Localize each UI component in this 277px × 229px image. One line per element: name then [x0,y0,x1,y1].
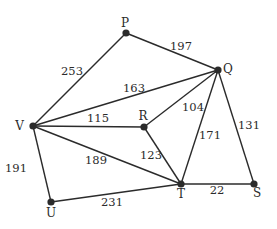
node-q [214,66,221,73]
edge-weight-label: 191 [5,161,27,175]
node-label: P [121,16,129,30]
node-label: S [253,186,261,200]
node-label: V [14,119,24,133]
node-label: U [46,206,56,220]
node-p [122,29,129,36]
edge-weight-label: 197 [170,39,192,53]
edge-weight-label: 104 [182,100,204,114]
edge-weight-label: 231 [101,195,123,209]
node-u [47,198,54,205]
edge-weight-label: 189 [85,153,107,167]
edge-weight-label: 123 [140,148,162,162]
graph-diagram: 25319716311510418912317113122191231PQVRU… [0,0,277,229]
node-v [29,122,36,129]
edge-q-t [181,70,218,184]
node-label: T [177,187,185,201]
node-label: R [138,109,148,123]
edge-r-q [144,70,218,127]
edge-v-r [33,126,144,127]
graph-canvas: 25319716311510418912317113122191231PQVRU… [0,0,277,229]
node-r [140,123,147,130]
edge-weight-label: 171 [199,128,221,142]
edge-weight-label: 131 [238,118,260,132]
edge-weight-label: 115 [87,111,109,125]
labels-layer: 25319716311510418912317113122191231PQVRU… [5,16,261,220]
edge-weight-label: 163 [123,81,145,95]
edge-weight-label: 22 [210,183,225,197]
node-label: Q [223,62,233,76]
edge-weight-label: 253 [61,64,83,78]
edge-v-u [33,126,51,202]
